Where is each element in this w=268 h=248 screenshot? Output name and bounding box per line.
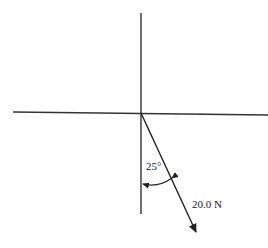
force-diagram [0, 0, 268, 248]
angle-arc [143, 178, 172, 185]
force-vector-arrow [141, 113, 196, 232]
angle-label: 25° [146, 160, 161, 172]
force-magnitude-label: 20.0 N [192, 198, 222, 210]
